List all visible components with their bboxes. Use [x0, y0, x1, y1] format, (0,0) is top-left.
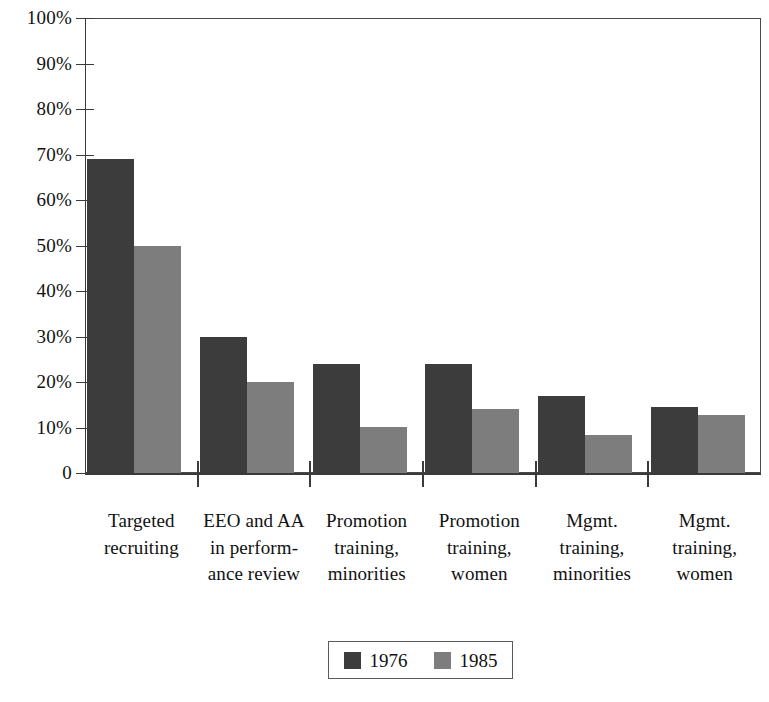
x-axis-category-label: Targetedrecruiting	[85, 508, 198, 561]
category-label-line: training,	[423, 535, 536, 562]
x-axis-category-label: Mgmt.training,women	[648, 508, 761, 588]
x-axis-category-label: Promotiontraining,minorities	[310, 508, 423, 588]
bar-1985-0	[134, 246, 181, 474]
bar-1985-3	[472, 409, 519, 473]
legend-label: 1985	[460, 651, 498, 670]
bar-1985-4	[585, 435, 632, 473]
category-label-line: ance review	[198, 561, 311, 588]
chart-legend: 19761985	[328, 641, 513, 679]
category-label-line: EEO and AA	[198, 508, 311, 535]
bar-1976-2	[313, 364, 360, 473]
legend-item-1976: 1976	[344, 651, 408, 670]
category-label-line: in perform-	[198, 535, 311, 562]
category-label-line: recruiting	[85, 535, 198, 562]
category-label-line: Promotion	[310, 508, 423, 535]
bars-layer	[0, 0, 769, 702]
category-label-line: training,	[310, 535, 423, 562]
x-axis-category-label: EEO and AAin perform-ance review	[198, 508, 311, 588]
category-label-line: training,	[648, 535, 761, 562]
legend-swatch-1976	[344, 652, 361, 669]
category-label-line: women	[423, 561, 536, 588]
bar-1985-5	[698, 415, 745, 473]
category-label-line: minorities	[310, 561, 423, 588]
bar-1976-0	[87, 159, 134, 473]
legend-item-1985: 1985	[434, 651, 498, 670]
bar-chart: 100%90%80%70%60%50%40%30%20%10%0 Targete…	[0, 0, 769, 702]
category-label-line: Mgmt.	[536, 508, 649, 535]
category-label-line: training,	[536, 535, 649, 562]
legend-swatch-1985	[434, 652, 451, 669]
x-axis-category-label: Mgmt.training,minorities	[536, 508, 649, 588]
bar-1976-3	[425, 364, 472, 473]
category-label-line: Mgmt.	[648, 508, 761, 535]
bar-1985-2	[360, 427, 407, 473]
category-label-line: minorities	[536, 561, 649, 588]
category-label-line: Targeted	[85, 508, 198, 535]
bar-1985-1	[247, 382, 294, 473]
bar-1976-4	[538, 396, 585, 473]
bar-1976-1	[200, 337, 247, 474]
legend-label: 1976	[370, 651, 408, 670]
x-axis-category-label: Promotiontraining,women	[423, 508, 536, 588]
category-label-line: women	[648, 561, 761, 588]
bar-1976-5	[651, 407, 698, 473]
category-label-line: Promotion	[423, 508, 536, 535]
